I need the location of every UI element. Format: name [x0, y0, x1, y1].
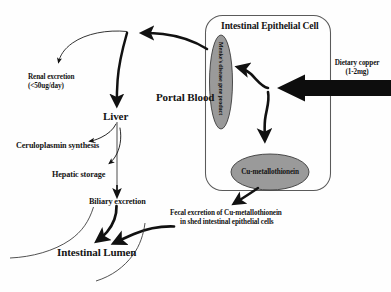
epithelial-cell-title: Intestinal Epithelial Cell: [221, 21, 319, 32]
intestinal-lumen-label: Intestinal Lumen: [57, 246, 136, 258]
renal-excretion-label-line2: (<50ug/day): [28, 82, 64, 90]
cu-metallothionein-label: Cu-metallothionein: [236, 168, 304, 176]
hepatic-storage-label: Hepatic storage: [52, 170, 105, 179]
copper-metabolism-diagram: Intestinal Epithelial Cell Menke's disea…: [0, 0, 391, 292]
arrow-biliary-to-lumen: [98, 206, 117, 240]
fecal-excretion-label-line1: Fecal excretion of Cu-metallothionein: [170, 209, 282, 217]
portal-blood-label: Portal Blood: [156, 91, 214, 103]
menkes-protein-label: Menke's disease gene product: [218, 42, 224, 115]
fecal-excretion-label-line2: in shed intestinal epithelial cells: [180, 218, 274, 226]
arrow-portal-blood-to-renal: [59, 31, 127, 62]
dietary-copper-label-line2: (1-2mg): [325, 68, 389, 76]
arrow-menkes-to-portal-blood: [144, 33, 208, 49]
arrow-liver-to-hepatic-storage: [110, 128, 121, 163]
liver-label: Liver: [103, 110, 128, 122]
biliary-excretion-label: Biliary excretion: [89, 197, 146, 206]
arrow-liver-to-ceruloplasmin: [90, 124, 116, 141]
renal-excretion-label-line1: Renal excretion: [28, 73, 74, 81]
ceruloplasmin-synthesis-label: Ceruloplasmin synthesis: [16, 141, 99, 150]
dietary-copper-label-line1: Dietary copper: [325, 59, 389, 67]
arrow-fecal-to-lumen: [115, 226, 174, 242]
arrow-portal-blood-to-liver: [117, 33, 127, 104]
